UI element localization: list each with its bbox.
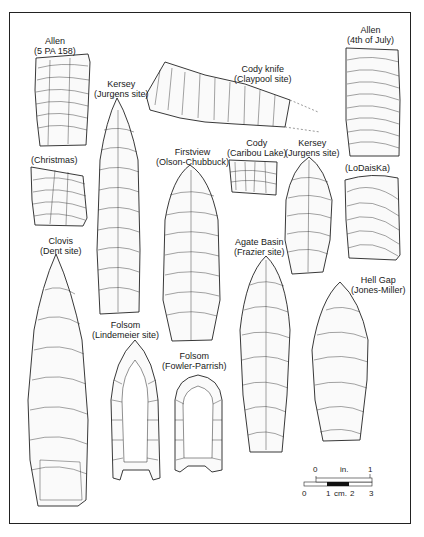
label-hell-gap: Hell Gap (Jones-Miller): [351, 275, 406, 295]
scale-cm-3: 3: [369, 489, 373, 498]
allen-5pa158-drawing: [35, 54, 90, 146]
label-allen-5pa158: Allen (5 PA 158): [34, 36, 76, 56]
label-christmas: (Christmas): [31, 155, 78, 165]
label-folsom-fowler: Folsom (Fowler-Parrish): [162, 351, 227, 371]
label-cody-knife: Cody knife (Claypool site): [234, 64, 292, 84]
scale-cm-2: 2: [350, 489, 354, 498]
label-lodaiska: (LoDaisKa): [345, 163, 390, 173]
lodaiska-drawing: [345, 175, 400, 260]
hell-gap-drawing: [312, 282, 368, 441]
scale-cm-0: 0: [302, 489, 306, 498]
label-folsom-lindenmeier: Folsom (Lindemeier site): [92, 320, 159, 340]
scale-cm-1: 1: [326, 489, 330, 498]
scale-bar-graphic: [304, 474, 372, 486]
label-agate-basin: Agate Basin (Frazier site): [234, 237, 285, 257]
folsom-fowler-drawing: [175, 375, 222, 472]
cody-knife-drawing: [146, 62, 320, 132]
christmas-drawing: [31, 167, 87, 226]
label-clovis: Clovis (Dent site): [40, 236, 82, 256]
scale-inch-unit: in.: [340, 465, 348, 474]
label-allen-4th-of-july: Allen (4th of July): [347, 25, 394, 45]
label-firstview: Firstview (Olson-Chubbuck): [156, 147, 229, 167]
kersey-jurgens-2-drawing: [285, 157, 332, 274]
folsom-lindenmeier-drawing: [111, 340, 160, 480]
artifact-drawings: [0, 0, 424, 537]
label-kersey-jurgens-1: Kersey (Jurgens site): [94, 79, 149, 99]
allen-4th-of-july-drawing: [346, 48, 400, 156]
scale-cm-unit: cm.: [334, 489, 347, 498]
label-cody-caribou: Cody (Caribou Lake): [227, 138, 287, 158]
firstview-drawing: [163, 165, 220, 341]
scale-inch-1: 1: [368, 465, 372, 474]
agate-basin-drawing: [240, 256, 290, 452]
clovis-drawing: [28, 254, 88, 506]
label-kersey-jurgens-2: Kersey (Jurgens site): [285, 138, 340, 158]
scale-inch-0: 0: [313, 465, 317, 474]
kersey-jurgens-1-drawing: [97, 92, 140, 314]
cody-caribou-drawing: [229, 160, 277, 195]
